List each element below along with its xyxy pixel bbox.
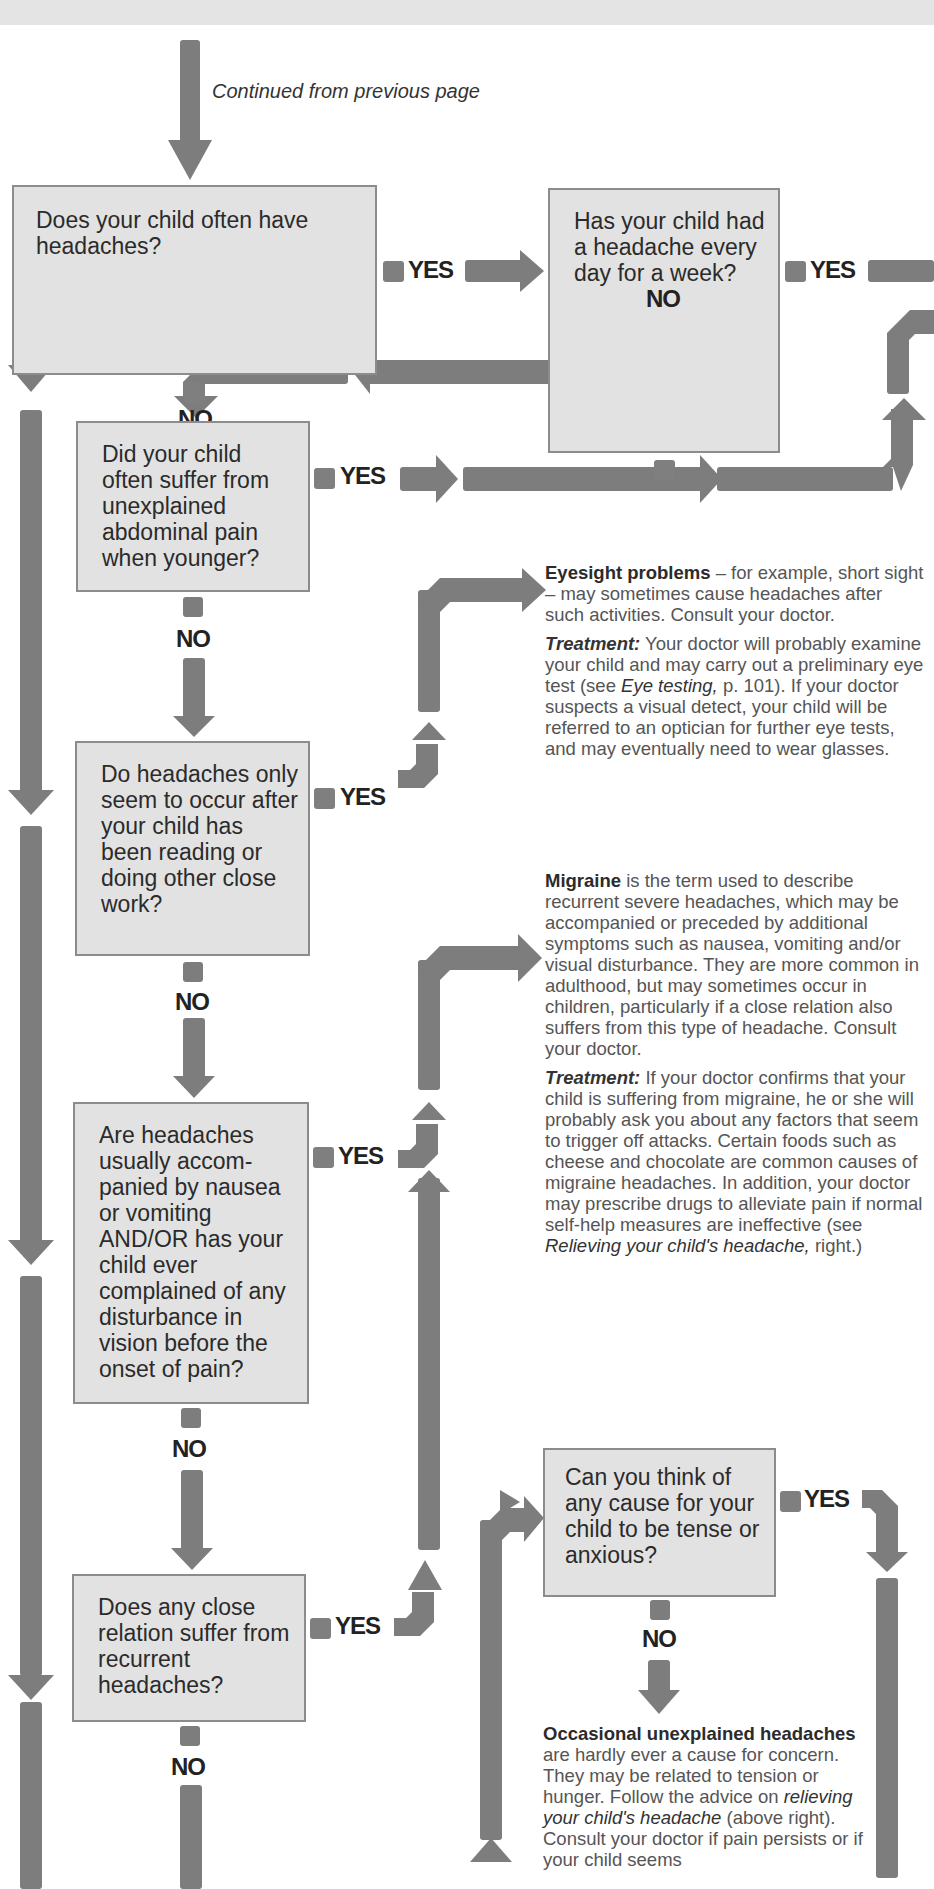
occasional-headaches-info: Occasional unexplained headaches are har… [543,1723,873,1878]
migraine-info: Migraine is the term used to describe re… [545,870,925,1264]
question-box-often-headaches: Does your child often have headaches? [12,185,377,375]
yes-label: YES [340,783,385,811]
question-text: Do headaches only seem to occur after yo… [101,761,298,917]
question-box-tense-anxious: Can you think of any cause for your chil… [543,1448,776,1597]
no-label: NO [642,1625,676,1653]
migraine-title: Migraine [545,870,621,891]
yes-label: YES [408,256,453,284]
no-marker [184,382,205,403]
yes-marker [785,261,806,282]
question-box-nausea-vision: Are headaches usually accom-panied by na… [73,1102,309,1404]
relieving-headache-link[interactable]: Relieving your child's headache, [545,1235,810,1256]
continued-note: Continued from previous page [212,80,480,103]
yes-marker [310,1618,331,1639]
migraine-body: is the term used to describe recurrent s… [545,870,919,1059]
no-label: NO [172,1435,206,1463]
no-label: NO [175,988,209,1016]
question-box-daily-headache: Has your child had a headache every day … [548,188,780,453]
no-label: NO [176,625,210,653]
question-text: Did your child often suffer from unexpla… [102,441,269,571]
no-label: NO [646,285,680,313]
no-marker [654,460,675,481]
eyesight-treatment-label: Treatment: [545,633,640,654]
yes-label: YES [340,462,385,490]
migraine-treatment-text-end: right.) [810,1235,862,1256]
yes-marker [314,788,335,809]
question-text: Are headaches usually accom-panied by na… [99,1122,286,1382]
yes-label: YES [335,1612,380,1640]
yes-marker [314,468,335,489]
yes-label: YES [810,256,855,284]
occasional-title: Occasional unexplained headaches [543,1723,856,1744]
yes-label: YES [804,1485,849,1513]
question-box-close-relation: Does any close relation suffer from recu… [72,1574,306,1722]
no-label: NO [171,1753,205,1781]
yes-label: YES [338,1142,383,1170]
yes-marker [383,261,404,282]
yes-marker [780,1491,801,1512]
question-text: Does your child often have headaches? [36,207,308,259]
yes-marker [313,1147,334,1168]
question-text: Has your child had a headache every day … [574,208,765,286]
eyesight-title: Eyesight problems [545,562,711,583]
eye-testing-link[interactable]: Eye testing, [621,675,718,696]
question-box-abdominal-pain: Did your child often suffer from unexpla… [76,421,310,592]
question-box-close-work: Do headaches only seem to occur after yo… [75,741,310,956]
question-text: Can you think of any cause for your chil… [565,1464,759,1568]
migraine-treatment-text: If your doctor confirms that your child … [545,1067,922,1235]
migraine-treatment-label: Treatment: [545,1067,640,1088]
question-text: Does any close relation suffer from recu… [98,1594,289,1698]
eyesight-problems-info: Eyesight problems – for example, short s… [545,562,925,767]
